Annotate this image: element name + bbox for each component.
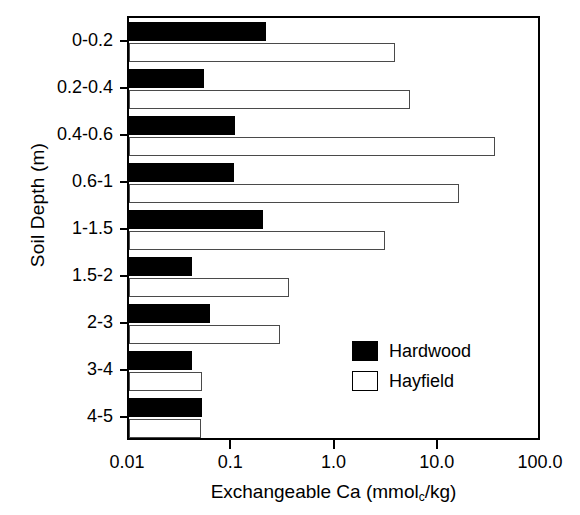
legend-swatch-hayfield <box>352 371 378 391</box>
bar-hardwood-2-3 <box>129 304 210 323</box>
bar-hardwood-0.6-1 <box>129 163 234 182</box>
bar-group <box>129 18 538 65</box>
legend-label-hayfield: Hayfield <box>389 371 454 392</box>
x-tick-label-100.0: 100.0 <box>517 452 562 473</box>
chart-legend: HardwoodHayfield <box>352 336 471 396</box>
bar-group <box>129 348 538 395</box>
bar-hayfield-3-4 <box>129 372 202 391</box>
y-tick-mark <box>120 181 127 183</box>
x-tick-mark-10.0 <box>436 440 438 449</box>
legend-entry-hardwood: Hardwood <box>352 336 471 366</box>
bar-hardwood-4-5 <box>129 398 202 417</box>
x-axis-title-main: Exchangeable Ca (mmol <box>211 481 419 502</box>
x-tick-label-10.0: 10.0 <box>419 452 454 473</box>
y-tick-mark <box>120 87 127 89</box>
y-tick-mark <box>120 228 127 230</box>
legend-entry-hayfield: Hayfield <box>352 366 471 396</box>
bar-hayfield-1-1.5 <box>129 231 385 250</box>
bar-group <box>129 301 538 348</box>
y-tick-mark <box>120 134 127 136</box>
bar-hayfield-2-3 <box>129 325 280 344</box>
bar-group <box>129 395 538 442</box>
legend-swatch-hardwood <box>352 341 378 361</box>
bar-hayfield-4-5 <box>129 419 201 438</box>
bar-hardwood-0-0.2 <box>129 22 266 41</box>
y-tick-mark <box>120 275 127 277</box>
x-tick-label-1.0: 1.0 <box>321 452 346 473</box>
x-axis-title-subscript: c <box>419 490 425 504</box>
x-tick-label-0.1: 0.1 <box>218 452 243 473</box>
bar-hayfield-0-0.2 <box>129 43 395 62</box>
x-tick-label-0.01: 0.01 <box>109 452 144 473</box>
bar-hayfield-1.5-2 <box>129 278 289 297</box>
bar-group <box>129 254 538 301</box>
legend-label-hardwood: Hardwood <box>389 341 471 362</box>
y-tick-mark <box>120 369 127 371</box>
chart-figure: Soil Depth (m) 0-0.20.2-0.40.4-0.60.6-11… <box>0 0 580 515</box>
y-tick-mark <box>120 322 127 324</box>
bar-group <box>129 65 538 112</box>
bar-hardwood-0.4-0.6 <box>129 116 235 135</box>
bar-hardwood-1-1.5 <box>129 210 263 229</box>
x-axis-title: Exchangeable Ca (mmolc/kg) <box>127 481 540 503</box>
plot-area <box>127 16 540 440</box>
bar-hardwood-1.5-2 <box>129 257 192 276</box>
bar-hayfield-0.6-1 <box>129 184 459 203</box>
bar-hardwood-3-4 <box>129 351 192 370</box>
bar-group <box>129 112 538 159</box>
x-tick-mark-1.0 <box>333 440 335 449</box>
y-tick-mark <box>120 416 127 418</box>
bar-hardwood-0.2-0.4 <box>129 69 204 88</box>
bar-group <box>129 159 538 206</box>
bar-group <box>129 206 538 253</box>
x-axis-title-tail: /kg) <box>425 481 457 502</box>
bar-hayfield-0.4-0.6 <box>129 137 495 156</box>
y-tick-mark <box>120 40 127 42</box>
x-tick-mark-0.1 <box>229 440 231 449</box>
bar-hayfield-0.2-0.4 <box>129 90 410 109</box>
